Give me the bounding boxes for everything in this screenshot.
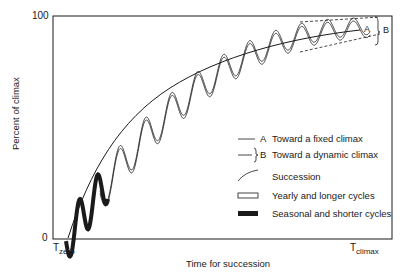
x-start-sub: zero	[59, 247, 75, 256]
legend-seasonal-icon	[238, 211, 258, 216]
legend-key-b: B	[260, 149, 266, 160]
brace-b	[375, 17, 380, 45]
annotation-a: A	[364, 24, 370, 34]
yearly-cycles-ribbon	[100, 18, 370, 206]
legend-brace-icon	[254, 148, 258, 162]
y-tick-0: 0	[42, 232, 48, 243]
x-end-label: Tclimax	[350, 242, 379, 253]
plot-frame	[53, 16, 392, 239]
y-axis-label: Percent of climax	[10, 77, 21, 150]
legend-label-dynamic-climax: Toward a dynamic climax	[272, 149, 378, 160]
legend-key-a: A	[260, 133, 266, 144]
x-axis-label: Time for succession	[186, 258, 270, 269]
x-start-label: Tzero	[53, 242, 75, 253]
x-end-sub: climax	[356, 247, 379, 256]
annotation-b: B	[383, 25, 389, 35]
legend-label-yearly: Yearly and longer cycles	[272, 190, 375, 201]
y-tick-100: 100	[32, 10, 49, 21]
legend-yearly-icon	[238, 193, 258, 198]
legend-label-fixed-climax: Toward a fixed climax	[272, 133, 363, 144]
legend-label-succession: Succession	[272, 171, 321, 182]
legend-succession-icon	[238, 170, 258, 181]
legend-label-seasonal: Seasonal and shorter cycles	[272, 208, 391, 219]
